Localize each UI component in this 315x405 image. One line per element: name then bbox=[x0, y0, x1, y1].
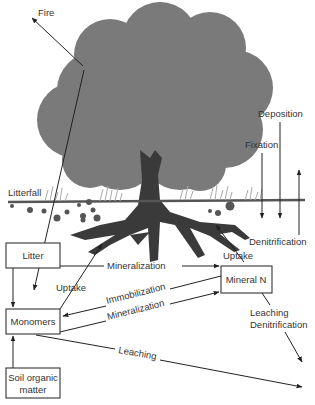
box-litter: Litter bbox=[6, 243, 60, 268]
label-litterfall: Litterfall bbox=[8, 187, 41, 198]
svg-text:Mineral N: Mineral N bbox=[226, 274, 267, 285]
mineralization-bottom-line bbox=[60, 321, 106, 332]
svg-text:matter: matter bbox=[20, 384, 47, 395]
svg-text:Litter: Litter bbox=[22, 250, 43, 261]
nitrogen-cycle-diagram: Fire Deposition Fixation Denitrification… bbox=[0, 0, 315, 405]
uptake-left-arrow bbox=[60, 244, 102, 309]
label-leaching-1: Leaching bbox=[250, 307, 289, 318]
svg-text:Monomers: Monomers bbox=[11, 316, 56, 327]
box-monomers: Monomers bbox=[6, 309, 60, 334]
box-soil-organic-matter: Soil organic matter bbox=[6, 368, 60, 398]
label-fire: Fire bbox=[38, 7, 54, 18]
label-mineralization-top: Mineralization bbox=[107, 260, 166, 271]
leaching-arrow bbox=[160, 360, 302, 387]
label-uptake-left: Uptake bbox=[56, 282, 86, 293]
immobilization-arrow bbox=[63, 306, 106, 316]
label-leaching: Leaching bbox=[118, 344, 158, 362]
label-uptake-right: Uptake bbox=[223, 250, 253, 261]
label-deposition: Deposition bbox=[258, 108, 303, 119]
immobilization-line bbox=[170, 276, 221, 289]
svg-text:Soil organic: Soil organic bbox=[8, 372, 58, 383]
label-leaching-2: Denitrification bbox=[250, 319, 308, 330]
ground-line bbox=[8, 200, 305, 202]
leaching-denit-line bbox=[262, 293, 270, 305]
leaching-line bbox=[36, 335, 115, 349]
box-mineral-n: Mineral N bbox=[221, 266, 272, 293]
fire-arrow bbox=[32, 18, 83, 66]
label-fixation: Fixation bbox=[245, 139, 278, 150]
leaching-denit-arrow bbox=[285, 332, 302, 362]
mineralization-bottom-arrow bbox=[170, 292, 219, 304]
label-denitrification: Denitrification bbox=[249, 236, 307, 247]
